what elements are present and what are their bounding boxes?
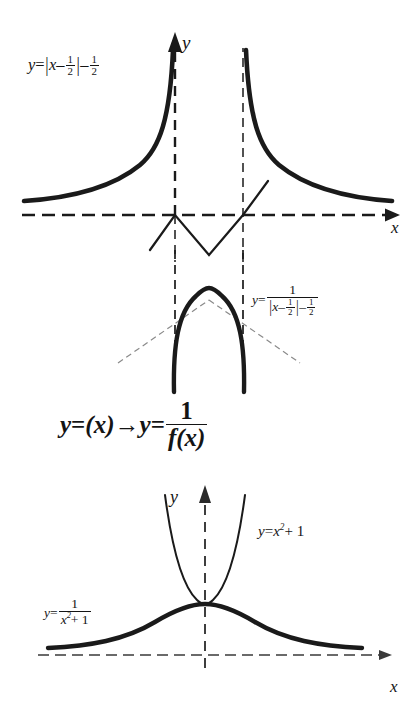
bottom-y-axis-arrowhead: [199, 485, 211, 503]
transform-numerator: 1: [166, 398, 207, 425]
label-parabola-function: y=x2+ 1: [258, 523, 304, 539]
label-abs-half-2: 12: [90, 54, 99, 78]
label-recip-par-denominator: x2+ 1: [59, 612, 91, 627]
label-abs-close-bar: |: [76, 55, 80, 76]
label-abs-equals: =: [35, 55, 44, 74]
label-abs-minus-2: –: [80, 55, 88, 74]
bottom-x-axis-label: x: [390, 677, 398, 697]
label-abs-open-bar: |: [45, 55, 49, 76]
label-parabola-equals: =: [265, 523, 273, 539]
middle-guide-left: [118, 300, 209, 363]
label-abs-minus: –: [56, 55, 64, 74]
label-parabola-y: y: [258, 523, 265, 539]
bottom-x-axis-arrowhead: [379, 650, 392, 660]
top-y-axis-label: y: [182, 32, 190, 54]
label-recip-abs-numerator: 1: [267, 283, 319, 298]
label-recip-par-fraction: 1x2+ 1: [59, 597, 91, 627]
reciprocal-arch-curve: [174, 288, 244, 392]
label-reciprocal-parabola: y=1x2+ 1: [44, 597, 92, 627]
top-x-axis-label: x: [391, 218, 399, 238]
label-absolute-value-function: y=|x–12|–12: [28, 54, 100, 78]
bottom-y-axis-label: y: [170, 487, 178, 508]
absolute-value-v-line: [150, 181, 268, 255]
transform-fraction: 1f(x): [166, 398, 207, 451]
transform-equals1: =: [71, 411, 85, 438]
figure-page: y=|x–12|–12 y=1|x–12|–12 y=(x)→y=1f(x) y…: [0, 0, 409, 713]
label-recip-abs-denominator: |x–12|–12: [267, 298, 319, 318]
label-recip-par-equals: =: [50, 605, 58, 620]
middle-panel-graph: [118, 250, 300, 392]
label-recip-par-numerator: 1: [59, 597, 91, 612]
label-parabola-plus-one: + 1: [284, 523, 304, 539]
transformation-statement: y=(x)→y=1f(x): [60, 398, 208, 451]
transform-fx1: (x): [85, 411, 114, 438]
transform-arrow-icon: →: [115, 411, 140, 438]
bottom-panel-graph: [38, 485, 392, 668]
transform-denominator: f(x): [166, 425, 207, 451]
reciprocal-branch-right: [246, 50, 392, 201]
transform-y1: y: [60, 411, 71, 438]
label-parabola-x: x: [273, 523, 280, 539]
transform-y2: y: [140, 411, 151, 438]
label-recip-abs-equals: =: [258, 292, 266, 307]
label-abs-half: 12: [66, 54, 75, 78]
transform-equals2: =: [151, 411, 165, 438]
label-recip-abs-fraction: 1|x–12|–12: [267, 283, 319, 318]
label-reciprocal-absolute-value: y=1|x–12|–12: [252, 283, 319, 318]
